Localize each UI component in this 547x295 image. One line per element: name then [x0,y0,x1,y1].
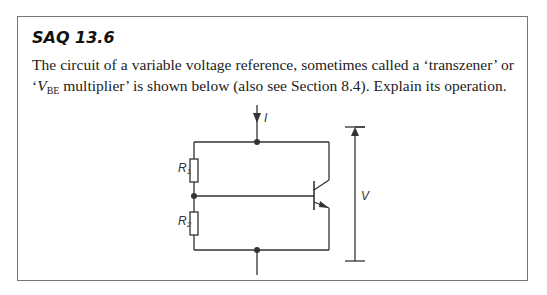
voltage-label: V [361,189,370,203]
voltage-arrow-icon [351,127,359,136]
emitter-arrow-icon [319,201,329,208]
vbe-multiplier-circuit: I R1 R2 V [0,0,547,295]
r1-label: R1 [178,161,191,176]
current-label: I [264,111,268,125]
current-arrow-icon [253,113,261,123]
